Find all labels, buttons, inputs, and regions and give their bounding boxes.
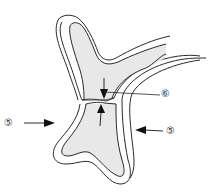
lower-cell-cytoplasm — [62, 104, 124, 176]
label-5-left-arrow-icon — [44, 119, 55, 127]
junction-lower-edge — [86, 102, 116, 104]
label-5-right-arrow-icon — [135, 126, 146, 134]
label-5-right-membrane: ⑤ — [166, 126, 175, 136]
label-6-junction: ⑥ — [161, 89, 170, 99]
right-outer-contour — [130, 60, 200, 178]
label-5-right-arrow-shaft — [144, 130, 163, 131]
cell-junction-diagram: ⑥ ⑤ ⑤ — [0, 0, 209, 192]
label-5-left-membrane: ⑤ — [4, 118, 13, 128]
diagram-canvas — [0, 0, 209, 192]
